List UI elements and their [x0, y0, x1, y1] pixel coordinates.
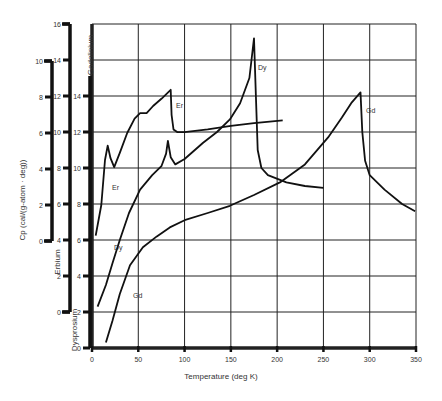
label-er-low: Er — [112, 184, 120, 191]
y-tick-label: 10 — [73, 165, 81, 172]
y-tick-label: 4 — [77, 273, 81, 280]
y-tick-label: 4 — [39, 166, 43, 173]
y-tick-label: 0 — [57, 309, 61, 316]
x-axis-label: Temperature (deg K) — [0, 372, 442, 381]
x-tick-label: 100 — [179, 356, 191, 363]
curve-gd — [106, 92, 415, 342]
label-dy-peak: Dy — [258, 64, 267, 72]
curve-dy — [98, 38, 324, 306]
x-tick-label: 0 — [90, 356, 94, 363]
y-tick-label: 14 — [73, 93, 81, 100]
y-tick-label: 6 — [39, 130, 43, 137]
y-tick-label: 16 — [53, 21, 61, 28]
y-tick-label: 12 — [73, 129, 81, 136]
x-tick-label: 50 — [134, 356, 142, 363]
y-tick-label: 10 — [53, 129, 61, 136]
axis-name-gadolinium: Gadolinium — [86, 34, 95, 75]
y-tick-label: 2 — [39, 202, 43, 209]
y-tick-label: 6 — [57, 201, 61, 208]
heat-capacity-chart: 0501001502002503003500246810024681012141… — [0, 0, 442, 401]
label-er-peak: Er — [176, 102, 184, 109]
y-tick-label: 8 — [39, 94, 43, 101]
y-tick-label: 8 — [77, 201, 81, 208]
y-tick-label: 14 — [53, 57, 61, 64]
label-gd-low: Gd — [133, 292, 142, 299]
y-tick-label: 4 — [57, 237, 61, 244]
label-gd-peak: Gd — [366, 107, 375, 114]
y-tick-label: 0 — [39, 238, 43, 245]
x-tick-label: 350 — [410, 356, 422, 363]
y-tick-label: 6 — [77, 237, 81, 244]
x-tick-label: 250 — [318, 356, 330, 363]
x-tick-label: 300 — [364, 356, 376, 363]
y-axis-label: Cp (cal/(g-atom · deg)) — [18, 160, 27, 241]
label-dy-low: Dy — [114, 244, 123, 252]
x-tick-label: 150 — [225, 356, 237, 363]
y-tick-label: 10 — [35, 58, 43, 65]
y-tick-label: 12 — [53, 93, 61, 100]
x-tick-label: 200 — [271, 356, 283, 363]
axis-name-erbium: Erbium — [53, 249, 62, 275]
curve-er — [96, 90, 283, 236]
y-tick-label: 8 — [57, 165, 61, 172]
axis-name-dysprosium: Dysprosium — [70, 309, 79, 352]
